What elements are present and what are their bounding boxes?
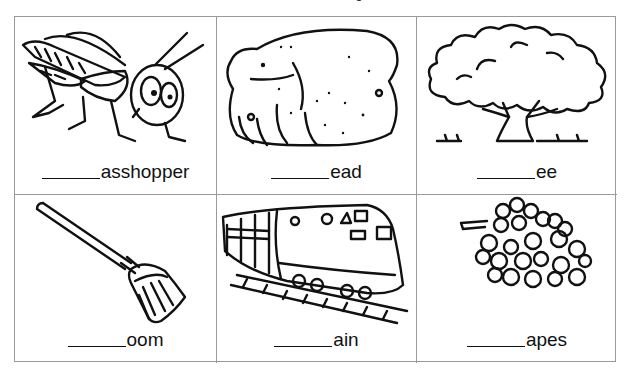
title-fragment xyxy=(356,0,362,1)
word-label-grapes: apes xyxy=(417,329,617,351)
word-label-broom: oom xyxy=(15,329,216,351)
answer-blank[interactable] xyxy=(274,346,332,347)
tree-icon xyxy=(417,17,617,157)
cell-train: ain xyxy=(217,195,417,363)
word-label-bread: ead xyxy=(217,161,416,183)
word-label-train: ain xyxy=(217,329,416,351)
cell-grapes: apes xyxy=(417,195,617,363)
train-icon xyxy=(217,195,416,335)
answer-blank[interactable] xyxy=(68,346,126,347)
answer-blank[interactable] xyxy=(467,346,525,347)
cell-tree: ee xyxy=(417,17,617,195)
broom-icon xyxy=(15,195,216,335)
answer-blank[interactable] xyxy=(42,178,100,179)
word-label-tree: ee xyxy=(417,161,617,183)
answer-blank[interactable] xyxy=(477,178,535,179)
grapes-icon xyxy=(417,195,617,335)
cell-bread: ead xyxy=(217,17,417,195)
grasshopper-icon xyxy=(15,17,216,157)
answer-blank[interactable] xyxy=(271,178,329,179)
word-label-grasshopper: asshopper xyxy=(15,161,216,183)
cell-broom: oom xyxy=(15,195,217,363)
bread-icon xyxy=(217,17,416,157)
cell-grasshopper: asshopper xyxy=(15,17,217,195)
word-picture-grid: asshopper xyxy=(14,16,616,362)
